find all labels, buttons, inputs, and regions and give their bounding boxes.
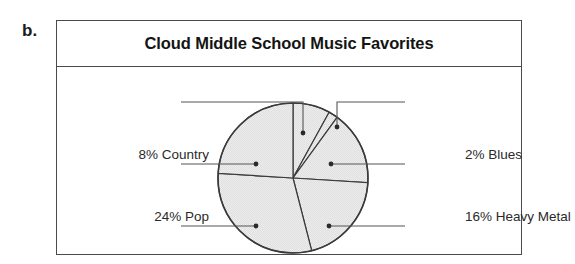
leader-dot-rap bbox=[327, 224, 332, 229]
pie-slices bbox=[218, 103, 368, 253]
pie-label-pop: 24% Pop bbox=[87, 210, 209, 224]
chart-frame: Cloud Middle School Music Favorites bbox=[56, 20, 522, 255]
pie-label-heavy-metal: 16% Heavy Metal bbox=[465, 210, 571, 224]
figure-root: b. Cloud Middle School Music Favorites bbox=[0, 0, 575, 264]
leader-dot-country bbox=[301, 131, 306, 136]
part-letter: b. bbox=[22, 22, 37, 39]
pie-label-country: 8% Country bbox=[87, 148, 209, 162]
chart-title: Cloud Middle School Music Favorites bbox=[145, 34, 434, 53]
chart-title-bar: Cloud Middle School Music Favorites bbox=[57, 21, 521, 67]
pie-label-blues: 2% Blues bbox=[465, 148, 522, 162]
leader-line-blues bbox=[337, 102, 405, 126]
pie-slice-pop[interactable] bbox=[218, 103, 293, 178]
plot-area: 8% Country 24% Pop 30% Rock 2% Blues 16%… bbox=[57, 67, 521, 254]
leader-dot-rock bbox=[254, 224, 259, 229]
leader-dot-blues bbox=[335, 125, 340, 130]
leader-dot-heavy-metal bbox=[329, 162, 334, 167]
leader-dot-pop bbox=[254, 162, 259, 167]
